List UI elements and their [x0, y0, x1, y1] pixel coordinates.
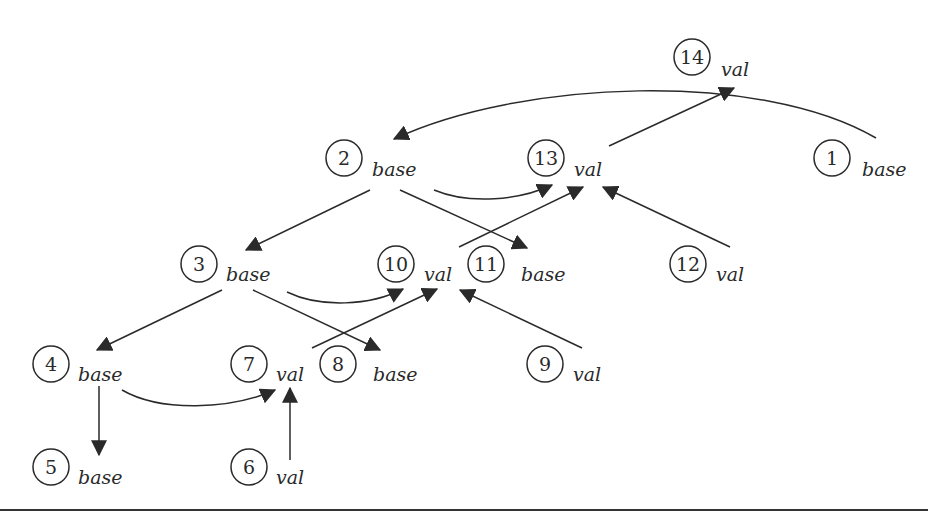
node-label: val [574, 158, 602, 180]
node-number: 12 [676, 253, 700, 275]
dependency-graph: 1 base 2 base 3 base 4 base 5 base 6 val… [0, 0, 928, 528]
node-3: 3 base [181, 246, 271, 285]
node-5: 5 base [33, 449, 123, 488]
node-label: base [78, 466, 123, 488]
node-number: 2 [338, 147, 350, 169]
node-number: 13 [534, 147, 558, 169]
node-label: val [573, 363, 601, 385]
edge-1-2 [394, 91, 876, 139]
node-9: 9 val [527, 346, 601, 385]
node-number: 10 [384, 253, 408, 275]
node-label: base [862, 158, 907, 180]
node-label: val [424, 263, 452, 285]
edge-2-11 [400, 190, 527, 248]
node-6: 6 val [231, 449, 304, 488]
edge-3-8 [253, 290, 380, 350]
node-number: 11 [474, 253, 498, 275]
edge-4-7 [122, 390, 275, 406]
node-8: 8 base [320, 346, 418, 385]
node-13: 13 val [528, 140, 602, 180]
node-number: 3 [193, 253, 205, 275]
node-14: 14 val [674, 39, 749, 80]
node-number: 14 [680, 46, 704, 68]
edge-2-3 [246, 190, 370, 250]
node-number: 1 [826, 147, 838, 169]
node-1: 1 base [814, 140, 907, 180]
edge-13-14 [609, 88, 734, 146]
node-label: base [373, 363, 418, 385]
node-4: 4 base [33, 346, 123, 385]
node-number: 6 [243, 456, 255, 478]
node-label: val [721, 58, 749, 80]
node-7: 7 val [231, 346, 304, 385]
edge-12-13 [603, 187, 730, 247]
node-label: val [276, 466, 304, 488]
edge-3-4 [97, 290, 222, 350]
node-10: 10 val [378, 246, 452, 285]
node-number: 9 [539, 353, 551, 375]
node-label: val [716, 263, 744, 285]
node-label: base [521, 263, 566, 285]
node-label: val [276, 363, 304, 385]
edge-3-10 [287, 289, 403, 303]
node-number: 4 [45, 353, 57, 375]
node-label: base [372, 158, 417, 180]
node-label: base [78, 363, 123, 385]
node-number: 5 [45, 456, 57, 478]
node-2: 2 base [326, 140, 417, 180]
node-number: 8 [332, 353, 344, 375]
edge-2-13 [434, 185, 552, 199]
node-11: 11 base [468, 246, 566, 285]
node-12: 12 val [670, 246, 744, 285]
edge-9-10 [460, 290, 582, 348]
node-label: base [226, 263, 271, 285]
edge-7-10 [312, 289, 437, 348]
node-number: 7 [243, 353, 255, 375]
